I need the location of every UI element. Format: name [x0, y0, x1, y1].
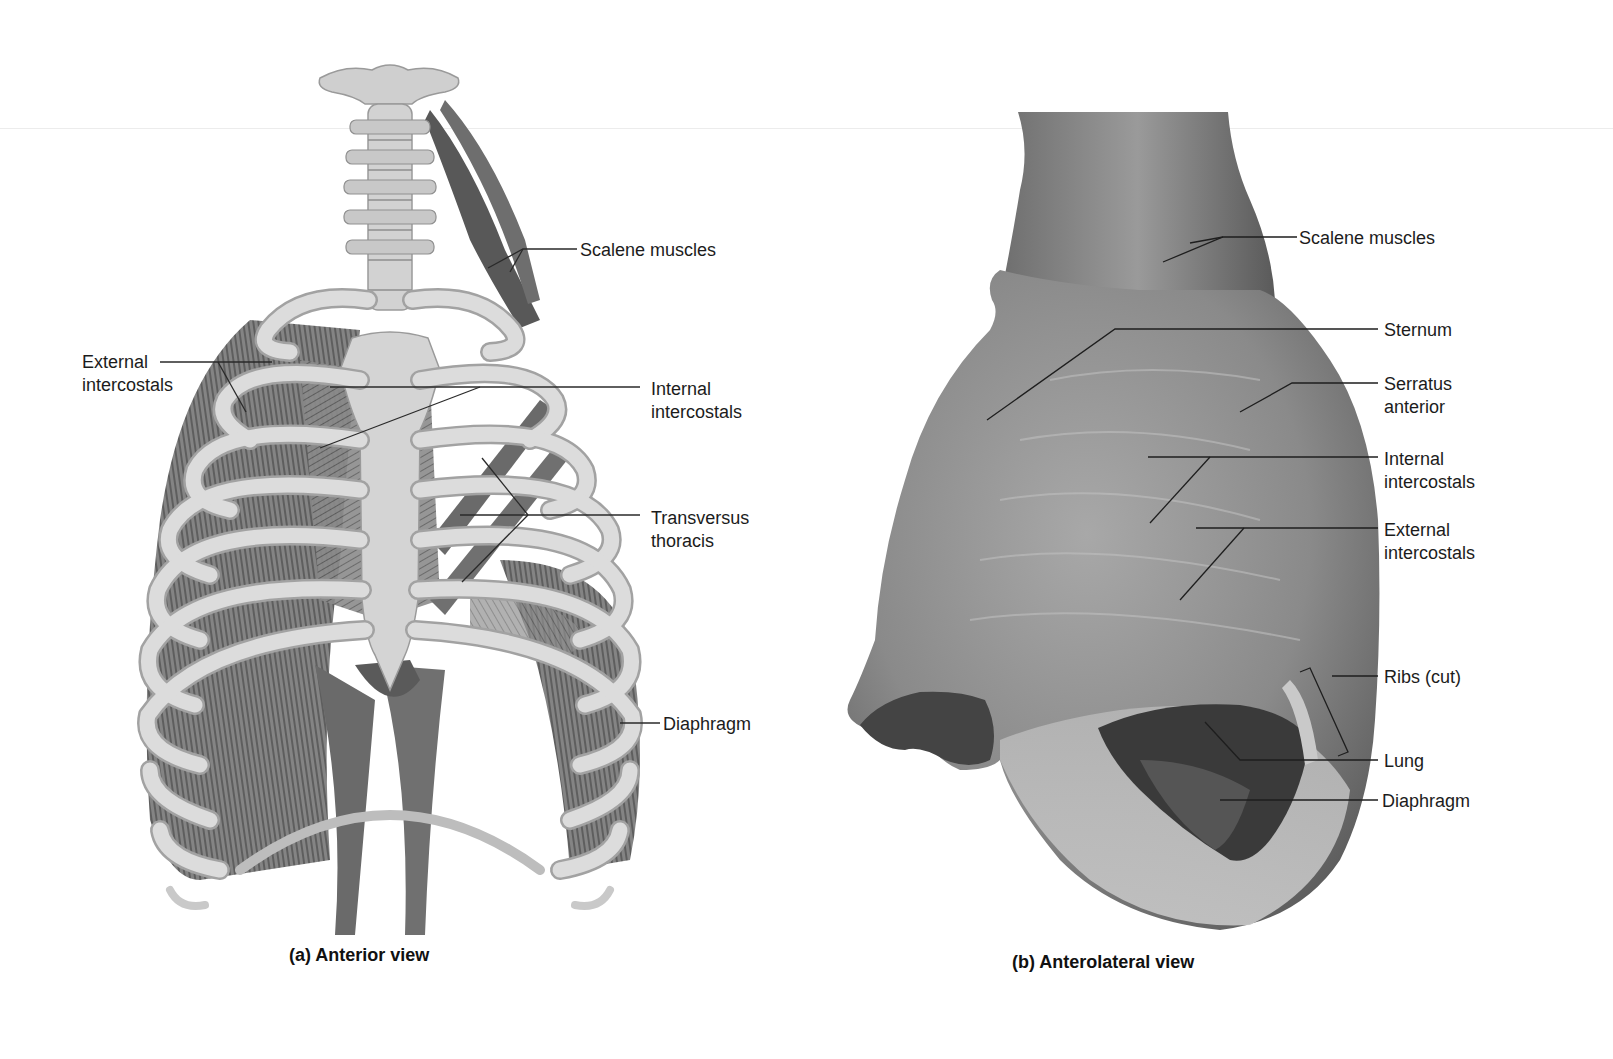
label-b-sternum: Sternum: [1384, 319, 1452, 342]
label-a-internal-intercostals: Internal intercostals: [651, 378, 742, 424]
label-a-scalene-muscles: Scalene muscles: [580, 239, 716, 262]
neck-tissue-shape: [1000, 112, 1275, 300]
label-a-diaphragm: Diaphragm: [663, 713, 751, 736]
label-b-lung: Lung: [1384, 750, 1424, 773]
caption-panel-a: (a) Anterior view: [289, 945, 429, 966]
label-b-serratus-anterior: Serratus anterior: [1384, 373, 1452, 419]
label-b-external-intercostals: External intercostals: [1384, 519, 1475, 565]
label-b-ribs-cut: Ribs (cut): [1384, 666, 1461, 689]
label-a-transversus-thoracis: Transversus thoracis: [651, 507, 749, 553]
label-b-diaphragm: Diaphragm: [1382, 790, 1470, 813]
caption-panel-b: (b) Anterolateral view: [1012, 952, 1194, 973]
panel-b-dissection-photo: [0, 0, 1613, 1059]
label-a-external-intercostals: External intercostals: [82, 351, 173, 397]
label-b-internal-intercostals: Internal intercostals: [1384, 448, 1475, 494]
label-b-scalene-muscles: Scalene muscles: [1299, 227, 1435, 250]
